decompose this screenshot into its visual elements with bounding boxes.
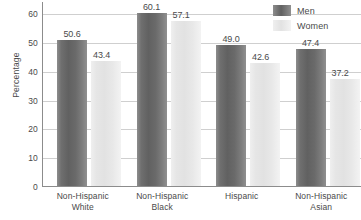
x-axis-category-label: Non-HispanicAsian [282,188,361,220]
bar-group: 49.042.6 [202,0,282,186]
legend-swatch-women-icon [273,20,291,31]
bar-value-label: 47.4 [290,38,332,48]
y-axis-tick-label: 20 [14,124,38,134]
y-axis-tick-label: 60 [14,9,38,19]
category-label-line: Hispanic [202,191,282,202]
legend: Men Women [273,3,357,33]
bar-value-label: 60.1 [131,2,173,12]
y-axis-tick-labels: 0102030405060 [14,0,38,220]
bar-value-label: 37.2 [332,68,361,78]
bar-men[interactable]: 49.0 [216,45,246,186]
bar-value-label: 49.0 [210,34,252,44]
y-axis-tick-label: 0 [14,182,38,192]
legend-item-women[interactable]: Women [273,18,357,33]
legend-label-men: Men [297,6,315,16]
bar-value-label: 50.6 [51,29,93,39]
category-label-line: Black [123,202,203,213]
bar-women[interactable]: 37.2 [330,79,360,186]
legend-item-men[interactable]: Men [273,3,357,18]
y-axis-tick-label: 40 [14,67,38,77]
category-label-line: Non-Hispanic [43,191,123,202]
y-axis-tick-label: 30 [14,96,38,106]
x-axis-category-label: Hispanic [202,188,282,220]
bar-group: 60.157.1 [123,0,203,186]
legend-swatch-men-icon [273,5,291,16]
x-axis-category-label: Non-HispanicBlack [123,188,203,220]
x-axis-category-labels: Non-HispanicWhiteNon-HispanicBlackHispan… [43,188,361,220]
y-axis-tick-label: 10 [14,153,38,163]
bar-men[interactable]: 60.1 [137,13,167,186]
bar-chart: Percentage 0102030405060 50.643.460.157.… [0,0,361,220]
category-label-line: Asian [282,202,361,213]
x-axis-category-label: Non-HispanicWhite [43,188,123,220]
bar-women[interactable]: 57.1 [171,21,201,186]
legend-label-women: Women [297,21,328,31]
bar-men[interactable]: 47.4 [296,49,326,186]
category-label-line: Non-Hispanic [123,191,203,202]
category-label-line: Non-Hispanic [282,191,361,202]
bar-women[interactable]: 42.6 [250,63,280,186]
x-axis-line [42,186,361,187]
bar-men[interactable]: 50.6 [57,40,87,186]
bar-women[interactable]: 43.4 [91,61,121,186]
bar-group: 50.643.4 [43,0,123,186]
y-axis-tick-label: 50 [14,38,38,48]
category-label-line: White [43,202,123,213]
